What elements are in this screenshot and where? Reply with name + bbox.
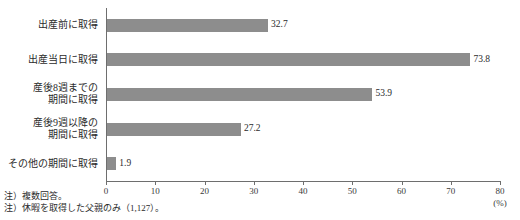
x-axis-tick (451, 181, 452, 185)
bar-value-label: 27.2 (244, 123, 261, 133)
note-line-1: 注）複数回答。 (4, 191, 164, 203)
x-axis-tick (205, 181, 206, 185)
x-axis-tick-label: 80 (496, 186, 505, 196)
category-label: 出産当日に取得 (0, 54, 98, 66)
bar (107, 157, 116, 170)
note-line-2: 注）休暇を取得した父親のみ（1,127）。 (4, 203, 164, 215)
x-axis-tick (352, 181, 353, 185)
chart-notes: 注）複数回答。 注）休暇を取得した父親のみ（1,127）。 (4, 191, 164, 214)
x-axis-tick (155, 181, 156, 185)
bar-row: 産後8週までの 期間に取得53.9 (0, 77, 520, 112)
x-axis-tick-label: 50 (348, 186, 357, 196)
x-axis-tick (254, 181, 255, 185)
axis-unit-label: (%) (493, 198, 507, 208)
bar-value-label: 73.8 (473, 54, 490, 64)
bar-value-label: 1.9 (119, 158, 131, 168)
x-axis-tick-label: 10 (151, 186, 160, 196)
bar (107, 88, 372, 101)
x-axis-tick (303, 181, 304, 185)
bar-row: その他の期間に取得1.9 (0, 146, 520, 181)
x-axis-tick (402, 181, 403, 185)
category-label: その他の期間に取得 (0, 158, 98, 170)
x-axis-tick-label: 30 (249, 186, 258, 196)
bar-row: 出産前に取得32.7 (0, 8, 520, 43)
bar (107, 19, 268, 32)
bar (107, 123, 241, 136)
x-axis-tick (500, 181, 501, 185)
bar (107, 53, 470, 66)
category-label: 出産前に取得 (0, 19, 98, 31)
bar-value-label: 53.9 (375, 88, 392, 98)
bar-row: 出産当日に取得73.8 (0, 43, 520, 78)
x-axis-tick-label: 0 (104, 186, 109, 196)
category-label: 産後9週以降の 期間に取得 (0, 117, 98, 141)
category-label: 産後8週までの 期間に取得 (0, 82, 98, 106)
x-axis-tick-label: 20 (200, 186, 209, 196)
x-axis-tick (106, 181, 107, 185)
bar-row: 産後9週以降の 期間に取得27.2 (0, 112, 520, 147)
bar-value-label: 32.7 (271, 19, 288, 29)
x-axis-tick-label: 60 (397, 186, 406, 196)
bar-chart-figure: (%) 注）複数回答。 注）休暇を取得した父親のみ（1,127）。 010203… (0, 0, 520, 220)
x-axis-tick-label: 40 (299, 186, 308, 196)
x-axis-tick-label: 70 (446, 186, 455, 196)
